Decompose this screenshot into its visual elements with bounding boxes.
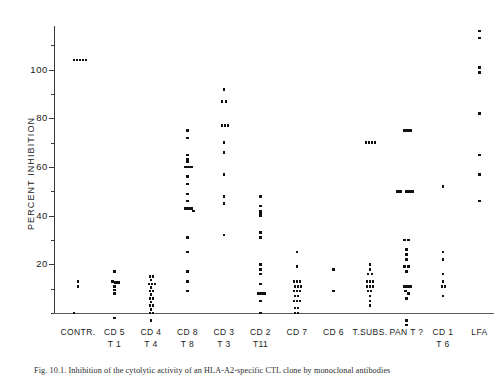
data-point xyxy=(186,251,189,254)
data-point xyxy=(223,173,226,176)
x-category-sublabel: T 4 xyxy=(144,339,157,349)
x-category-label: CD 6 xyxy=(323,327,344,337)
data-point xyxy=(186,154,189,157)
y-tick xyxy=(49,70,54,71)
data-point xyxy=(186,161,189,164)
data-point xyxy=(405,253,408,256)
data-point xyxy=(150,319,153,322)
data-point xyxy=(259,214,262,217)
data-point xyxy=(259,231,262,234)
data-point xyxy=(186,193,189,196)
data-point xyxy=(150,293,153,296)
x-category-sublabel: T 1 xyxy=(108,339,121,349)
data-point xyxy=(299,300,302,303)
data-point xyxy=(186,280,189,283)
data-point xyxy=(223,141,226,144)
data-point xyxy=(405,248,408,251)
data-point xyxy=(442,280,445,283)
data-point xyxy=(478,200,481,203)
data-point xyxy=(369,268,372,271)
data-point xyxy=(186,183,189,186)
data-point xyxy=(113,285,116,288)
data-point xyxy=(411,190,414,193)
data-point xyxy=(478,154,481,157)
y-tick-label: 20 xyxy=(20,258,48,269)
data-point xyxy=(225,100,228,103)
data-point xyxy=(478,37,481,40)
data-point xyxy=(407,265,410,268)
data-point xyxy=(117,281,120,284)
y-tick xyxy=(51,191,54,192)
data-point xyxy=(152,312,155,315)
data-point xyxy=(186,200,189,203)
data-point xyxy=(369,300,372,303)
data-point xyxy=(371,273,374,276)
data-point xyxy=(405,319,408,322)
data-point xyxy=(369,304,372,307)
x-category-label: LFA xyxy=(471,327,487,337)
scatter-plot: 20406080100 PERCENT INHIBITION CONTR.CD … xyxy=(0,0,499,345)
data-point xyxy=(442,295,445,298)
data-point xyxy=(152,304,155,307)
x-category-sublabel: T 3 xyxy=(217,339,230,349)
data-point xyxy=(296,251,299,254)
data-point xyxy=(192,210,195,213)
x-category-label: CONTR. xyxy=(61,327,96,337)
data-point xyxy=(259,205,262,208)
data-point xyxy=(300,285,303,288)
data-point xyxy=(150,286,153,289)
data-point xyxy=(77,285,80,288)
y-axis-line xyxy=(54,26,55,314)
data-point xyxy=(442,185,445,188)
data-point xyxy=(405,258,408,261)
data-point xyxy=(259,268,262,271)
data-point xyxy=(372,280,375,283)
data-point xyxy=(297,295,300,298)
data-point xyxy=(297,312,300,315)
y-tick xyxy=(51,45,54,46)
data-point xyxy=(299,280,302,283)
x-category-label: CD 7 xyxy=(287,327,308,337)
data-point xyxy=(259,273,262,276)
data-point xyxy=(186,129,189,132)
y-tick xyxy=(49,216,54,217)
data-point xyxy=(73,312,76,315)
x-category-label: PAN T ? xyxy=(390,327,424,337)
data-point xyxy=(77,280,80,283)
data-point xyxy=(186,236,189,239)
x-category-label: CD 4 xyxy=(141,327,162,337)
data-point xyxy=(403,265,406,268)
data-point xyxy=(332,268,335,271)
data-point xyxy=(186,290,189,293)
data-point xyxy=(154,283,157,286)
x-category-label: CD 8 xyxy=(177,327,198,337)
data-point xyxy=(405,270,408,273)
data-point xyxy=(407,292,410,295)
data-point xyxy=(186,175,189,178)
y-tick xyxy=(51,94,54,95)
y-tick xyxy=(49,118,54,119)
data-point xyxy=(332,290,335,293)
y-tick xyxy=(51,143,54,144)
data-point xyxy=(150,279,153,282)
y-axis-title: PERCENT INHIBITION xyxy=(26,117,36,230)
data-point xyxy=(223,88,226,91)
x-category-label: CD 5 xyxy=(104,327,125,337)
data-point xyxy=(369,263,372,266)
data-point xyxy=(478,30,481,33)
data-point xyxy=(409,129,412,132)
data-point xyxy=(367,273,370,276)
data-point xyxy=(442,258,445,261)
x-category-label: CD 3 xyxy=(214,327,235,337)
data-point xyxy=(85,59,88,62)
x-category-sublabel: T 8 xyxy=(181,339,194,349)
y-tick-label: 100 xyxy=(20,64,48,75)
data-point xyxy=(478,173,481,176)
data-point xyxy=(403,239,406,242)
data-point xyxy=(299,290,302,293)
data-point xyxy=(442,273,445,276)
y-tick xyxy=(51,240,54,241)
data-point xyxy=(190,166,193,169)
data-point xyxy=(370,290,373,293)
data-point xyxy=(478,66,481,69)
